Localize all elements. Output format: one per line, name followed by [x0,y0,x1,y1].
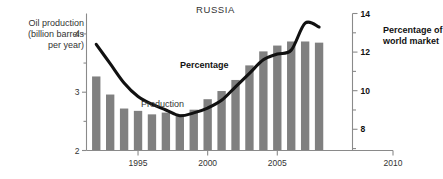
bar-2006 [287,41,295,150]
bar-1992 [92,76,100,150]
bar-1998 [176,114,184,150]
chart-figure: 23481012141995200020052010 RUSSIA Oil pr… [0,0,443,179]
right-axis-title: Percentage of world market [383,25,441,47]
x-tick-label-1995: 1995 [129,158,148,168]
x-tick-label-2000: 2000 [198,158,217,168]
bar-1993 [106,95,114,151]
right-tick-label-14: 14 [361,9,371,19]
bar-1997 [162,113,170,151]
left-tick-label-3: 3 [75,87,80,97]
bar-2007 [301,41,309,150]
x-tick-label-2005: 2005 [268,158,287,168]
series-annotation-production: Production [141,99,184,110]
series-annotation-percentage: Percentage [180,60,229,71]
bar-2008 [315,43,323,151]
x-tick-label-2010: 2010 [384,158,403,168]
chart-title: RUSSIA [196,4,235,16]
bar-1995 [134,111,142,151]
left-tick-label-2: 2 [75,146,80,156]
bar-1994 [120,109,128,151]
bar-1999 [190,110,198,151]
left-axis-title: Oil production (billion barrels per year… [8,18,84,51]
bar-1996 [148,114,156,150]
bar-2005 [273,46,281,151]
right-tick-label-10: 10 [361,86,371,96]
right-tick-label-12: 12 [361,47,371,57]
bar-series-production [92,41,323,150]
right-tick-label-8: 8 [361,124,366,134]
bar-2004 [259,51,267,150]
